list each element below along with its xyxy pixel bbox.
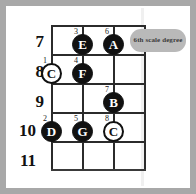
- fret-number-8: 8: [14, 63, 44, 80]
- note-letter: D: [47, 125, 56, 138]
- note-letter: C: [109, 125, 118, 138]
- note-letter: B: [109, 96, 118, 109]
- callout-6th-scale-degree: 6th scale degree: [130, 29, 186, 52]
- note-letter: A: [109, 38, 118, 51]
- note-marker-F[interactable]: F: [72, 63, 93, 84]
- fret-number-7: 7: [14, 33, 44, 50]
- note-marker-E[interactable]: E: [72, 34, 93, 55]
- note-marker-D[interactable]: D: [41, 121, 62, 142]
- fretboard-diagram: 7 8 9 10 11 3 E 6 A 1 C 4 F 7 B 2: [0, 0, 196, 194]
- note-letter: F: [79, 67, 87, 80]
- note-letter: G: [77, 125, 87, 138]
- fret-line-8-9: [51, 83, 146, 85]
- fret-line-9-10: [51, 112, 146, 114]
- note-marker-A[interactable]: A: [103, 34, 124, 55]
- string-line-1: [51, 25, 53, 171]
- note-marker-G[interactable]: G: [72, 121, 93, 142]
- fret-line-bottom: [51, 169, 146, 171]
- fret-line-7-8: [51, 54, 146, 56]
- note-letter: E: [78, 38, 87, 51]
- note-marker-B[interactable]: B: [103, 92, 124, 113]
- fret-number-9: 9: [14, 93, 44, 110]
- fret-number-11: 11: [6, 152, 36, 169]
- fret-line-top: [51, 25, 146, 27]
- fret-line-10-11: [51, 141, 146, 143]
- note-letter: C: [47, 67, 56, 80]
- note-marker-C-octave[interactable]: C: [103, 121, 124, 142]
- note-marker-C-root[interactable]: C: [41, 63, 62, 84]
- fret-number-10: 10: [6, 122, 36, 139]
